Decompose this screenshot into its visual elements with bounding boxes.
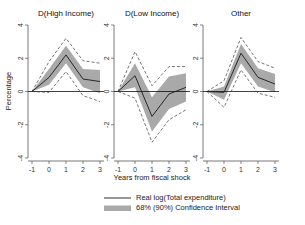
chart-panel: -4-2024-10123Other	[192, 9, 279, 173]
y-tick-label: -2	[103, 122, 110, 128]
x-tick-label: -1	[115, 166, 121, 173]
x-tick-label: 0	[133, 166, 137, 173]
x-tick-label: 2	[167, 166, 171, 173]
x-axis-title: Years from fiscal shock	[114, 173, 191, 182]
y-tick-label: 0	[192, 89, 199, 93]
y-tick-label: 4	[103, 23, 110, 27]
x-tick-label: 2	[81, 166, 85, 173]
panel-title: Other	[231, 9, 251, 18]
x-tick-label: -1	[29, 166, 35, 173]
x-tick-label: 3	[184, 166, 188, 173]
confidence-band-68	[118, 63, 186, 131]
y-tick-label: -2	[17, 122, 24, 128]
y-tick-label: 0	[103, 89, 110, 93]
panels-group: -4-2024-10123D(High Income)-4-2024-10123…	[17, 9, 279, 173]
x-tick-label: 0	[47, 166, 51, 173]
chart-panel: -4-2024-10123D(High Income)	[17, 9, 104, 173]
x-tick-label: 1	[239, 166, 243, 173]
chart-legend: Real log(Total expenditure) 68% (90%) Co…	[104, 193, 240, 212]
legend-band-label: 68% (90%) Confidence Interval	[136, 203, 240, 212]
chart-panel: -4-2024-10123D(Low Income)	[103, 9, 190, 173]
x-tick-label: -1	[204, 166, 210, 173]
y-tick-label: 2	[103, 56, 110, 60]
panel-title: D(High Income)	[38, 9, 94, 18]
x-tick-label: 2	[256, 166, 260, 173]
x-tick-label: 1	[150, 166, 154, 173]
x-tick-label: 3	[98, 166, 102, 173]
legend-band-swatch	[104, 206, 131, 212]
forecast-chart-figure: -4-2024-10123D(High Income)-4-2024-10123…	[0, 0, 305, 225]
y-tick-label: -2	[192, 122, 199, 128]
panel-title: D(Low Income)	[125, 9, 180, 18]
y-tick-label: 2	[192, 56, 199, 60]
legend-line-label: Real log(Total expenditure)	[136, 193, 226, 202]
y-tick-label: 2	[17, 56, 24, 60]
x-tick-label: 0	[222, 166, 226, 173]
y-tick-label: -4	[17, 155, 24, 161]
confidence-band-68	[32, 46, 100, 93]
y-tick-label: -4	[103, 155, 110, 161]
x-tick-label: 3	[273, 166, 277, 173]
x-tick-label: 1	[64, 166, 68, 173]
y-tick-label: 4	[17, 23, 24, 27]
y-axis-title: Percentage	[4, 72, 13, 110]
y-tick-label: -4	[192, 155, 199, 161]
y-tick-label: 0	[17, 89, 24, 93]
y-tick-label: 4	[192, 23, 199, 27]
